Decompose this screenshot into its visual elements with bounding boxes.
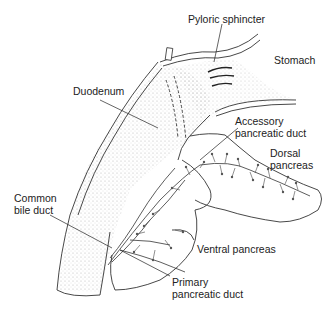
label-primary-line2: pancreatic duct	[172, 288, 243, 300]
label-pyloric-sphincter: Pyloric sphincter	[188, 13, 265, 25]
duodenum-shading	[58, 64, 210, 292]
label-common-bile-duct: Common bile duct	[14, 192, 57, 216]
label-accessory-pancreatic-duct: Accessory pancreatic duct	[235, 115, 306, 139]
vessel-stub	[165, 48, 173, 61]
label-common-line1: Common	[14, 192, 57, 204]
label-duodenum: Duodenum	[73, 85, 124, 97]
label-accessory-line2: pancreatic duct	[235, 127, 306, 139]
label-stomach: Stomach	[274, 54, 315, 66]
label-common-line2: bile duct	[14, 204, 57, 216]
label-dorsal-line2: pancreas	[270, 159, 313, 171]
label-ventral-pancreas: Ventral pancreas	[197, 243, 276, 255]
label-primary-line1: Primary	[172, 276, 243, 288]
label-dorsal-line1: Dorsal	[270, 147, 313, 159]
label-primary-pancreatic-duct: Primary pancreatic duct	[172, 276, 243, 300]
anatomy-diagram: Pyloric sphincter Stomach Duodenum Acces…	[0, 0, 334, 310]
label-accessory-line1: Accessory	[235, 115, 306, 127]
label-dorsal-pancreas: Dorsal pancreas	[270, 147, 313, 171]
